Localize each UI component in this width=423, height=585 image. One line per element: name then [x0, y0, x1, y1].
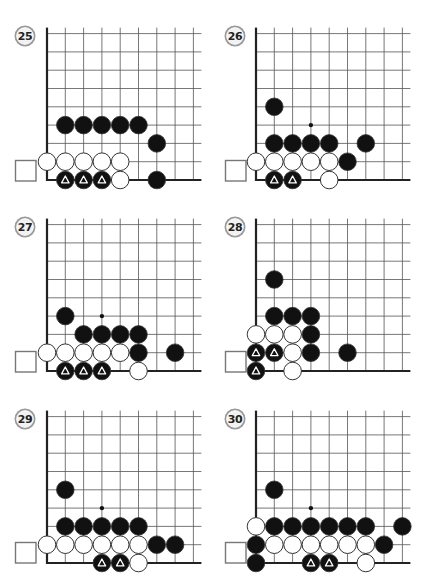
- problem-sheet: 252627282930: [0, 0, 423, 585]
- black-stone-marked: [111, 554, 129, 572]
- black-stone: [93, 326, 111, 344]
- square-marker-icon: [16, 543, 37, 564]
- black-stone: [266, 98, 284, 116]
- black-stone: [302, 135, 320, 153]
- white-stone: [247, 153, 265, 171]
- white-stone: [130, 362, 148, 380]
- black-stone: [247, 536, 265, 554]
- problem-number-badge: 26: [225, 26, 246, 47]
- white-stone: [320, 536, 338, 554]
- black-stone: [166, 344, 184, 362]
- black-stone: [75, 518, 93, 536]
- white-stone: [266, 153, 284, 171]
- point-marker-dot-icon: [309, 123, 313, 127]
- black-stone: [130, 518, 148, 536]
- white-stone: [302, 536, 320, 554]
- black-stone: [302, 344, 320, 362]
- problem-30: 30: [225, 409, 412, 572]
- black-stone: [339, 344, 357, 362]
- problem-number-badge: 30: [225, 409, 246, 430]
- white-stone: [111, 344, 129, 362]
- black-stone-marked: [57, 171, 75, 189]
- black-stone: [57, 481, 75, 499]
- square-marker-icon: [16, 161, 37, 182]
- problem-26: 26: [225, 26, 411, 189]
- white-stone: [111, 153, 129, 171]
- black-stone: [266, 135, 284, 153]
- white-stone: [247, 518, 265, 536]
- black-stone: [375, 536, 393, 554]
- black-stone-marked: [57, 362, 75, 380]
- black-stone: [93, 116, 111, 134]
- square-marker-icon: [226, 543, 247, 564]
- white-stone: [93, 153, 111, 171]
- black-stone-marked: [75, 171, 93, 189]
- problem-number: 28: [228, 221, 242, 234]
- white-stone: [130, 554, 148, 572]
- black-stone-marked: [93, 171, 111, 189]
- white-stone: [284, 536, 302, 554]
- black-stone: [148, 171, 166, 189]
- black-stone: [266, 271, 284, 289]
- problem-number: 30: [228, 413, 243, 426]
- white-stone: [38, 153, 56, 171]
- problem-number: 25: [18, 30, 32, 43]
- black-stone: [284, 307, 302, 325]
- problem-number-badge: 25: [15, 26, 36, 47]
- problem-number: 27: [18, 221, 32, 234]
- black-stone: [357, 135, 375, 153]
- black-stone: [266, 518, 284, 536]
- problem-number-badge: 28: [225, 217, 246, 238]
- problem-25: 25: [15, 26, 202, 189]
- black-stone: [148, 536, 166, 554]
- black-stone: [57, 518, 75, 536]
- black-stone: [93, 518, 111, 536]
- black-stone-marked: [75, 362, 93, 380]
- white-stone: [75, 153, 93, 171]
- square-marker-icon: [226, 352, 247, 373]
- white-stone: [247, 326, 265, 344]
- white-stone: [57, 153, 75, 171]
- black-stone-marked: [266, 171, 284, 189]
- white-stone: [111, 536, 129, 554]
- black-stone: [148, 135, 166, 153]
- black-stone: [57, 307, 75, 325]
- white-stone: [320, 153, 338, 171]
- square-marker-icon: [16, 352, 37, 373]
- black-stone: [302, 307, 320, 325]
- white-stone: [57, 344, 75, 362]
- black-stone: [339, 518, 357, 536]
- black-stone: [302, 326, 320, 344]
- problem-27: 27: [15, 217, 202, 380]
- stones: [38, 116, 165, 189]
- white-stone: [93, 344, 111, 362]
- black-stone: [266, 481, 284, 499]
- square-marker-icon: [226, 161, 247, 182]
- white-stone: [284, 362, 302, 380]
- white-stone: [93, 536, 111, 554]
- black-stone: [357, 518, 375, 536]
- black-stone-marked: [266, 344, 284, 362]
- white-stone: [339, 536, 357, 554]
- black-stone: [75, 116, 93, 134]
- white-stone: [111, 171, 129, 189]
- black-stone: [320, 518, 338, 536]
- white-stone: [38, 536, 56, 554]
- point-marker-dot-icon: [100, 506, 104, 510]
- white-stone: [357, 554, 375, 572]
- black-stone: [284, 135, 302, 153]
- problem-number: 29: [18, 413, 32, 426]
- white-stone: [266, 536, 284, 554]
- black-stone: [111, 518, 129, 536]
- stones: [38, 307, 184, 380]
- black-stone: [111, 326, 129, 344]
- black-stone: [266, 307, 284, 325]
- white-stone: [284, 326, 302, 344]
- black-stone-marked: [247, 344, 265, 362]
- white-stone: [266, 326, 284, 344]
- problem-29: 29: [15, 409, 202, 572]
- problem-number: 26: [228, 30, 243, 43]
- white-stone: [38, 344, 56, 362]
- point-marker-dot-icon: [100, 314, 104, 318]
- black-stone: [57, 116, 75, 134]
